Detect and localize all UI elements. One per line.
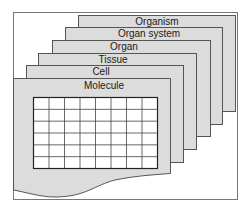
layer-label-molecule: Molecule (84, 80, 124, 91)
layer-label-cell: Cell (92, 66, 109, 77)
layer-label-organ-system: Organ system (118, 28, 180, 39)
layer-label-tissue: Tissue (98, 54, 128, 65)
layer-label-organism: Organism (135, 16, 178, 27)
organization-levels-diagram: Organism Organ system Organ Tissue Cell … (0, 0, 246, 211)
layer-label-organ: Organ (110, 41, 138, 52)
data-grid (34, 98, 158, 169)
